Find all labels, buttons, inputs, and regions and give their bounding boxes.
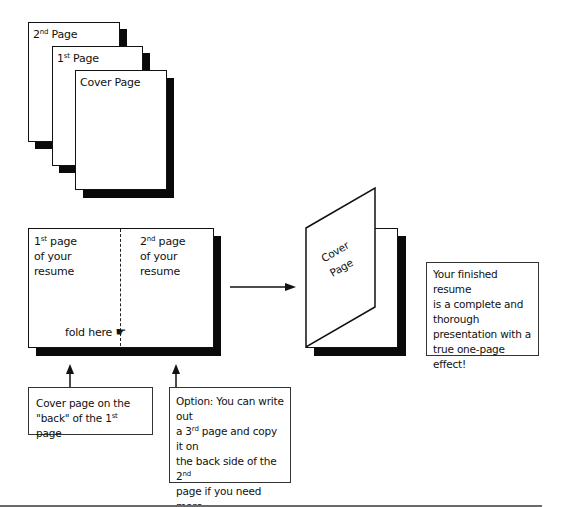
transform-arrow-head (285, 283, 296, 291)
caption-option-box: Option: You can write out a 3rd page and… (169, 387, 291, 483)
caption-left-arrow-head (66, 364, 74, 374)
result-line: thorough (433, 313, 479, 325)
caption-right-arrow-head (172, 364, 180, 374)
result-description-box: Your finished resume is a complete and t… (426, 262, 539, 356)
result-line: presentation with a (433, 328, 531, 340)
result-line: is a complete and (433, 298, 523, 310)
caption-cover-page-box: Cover page on the "back" of the 1st page (28, 387, 153, 435)
bottom-horizontal-rule (0, 505, 542, 507)
result-line: Your finished resume (433, 268, 498, 295)
